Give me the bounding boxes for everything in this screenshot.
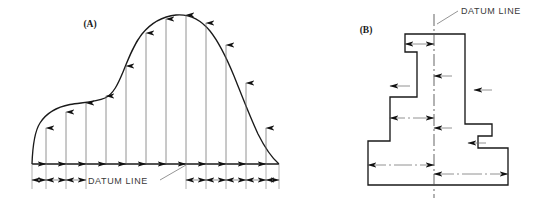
- panel-b-right-dimensions: [434, 76, 508, 174]
- panel-a-datum-label: DATUM LINE: [88, 176, 148, 186]
- panel-a-datum-leader: [160, 165, 186, 180]
- figure-canvas: (A): [0, 0, 546, 207]
- panel-b-label: (B): [360, 25, 373, 36]
- panel-b-group: (B) DATUM LINE: [360, 6, 521, 198]
- technical-drawing-figure: (A): [0, 0, 546, 207]
- panel-b-profile-outline: [368, 34, 508, 185]
- panel-a-extension-lines: [32, 164, 279, 189]
- panel-a-label: (A): [83, 19, 96, 30]
- panel-b-datum-label: DATUM LINE: [461, 6, 521, 16]
- panel-a-group: (A): [32, 15, 279, 189]
- panel-b-datum-leader: [437, 11, 458, 24]
- panel-a-profile-curve: [32, 15, 279, 164]
- panel-b-left-dimensions: [368, 44, 434, 165]
- panel-a-ordinate-arrows: [46, 15, 266, 164]
